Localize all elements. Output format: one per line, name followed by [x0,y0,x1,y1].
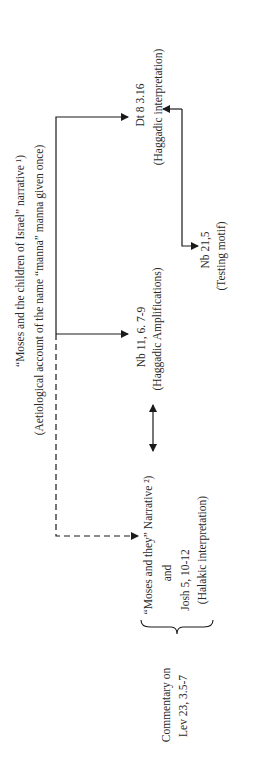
source-title: “Moses and the children of Israel” narra… [15,155,27,367]
dt-ref: Dt 8 3.16 [135,83,147,126]
dashed-arrow-to-group [56,334,138,536]
source-subtitle: (Aetiological account of the name “manna… [34,145,46,436]
nb21-ref: Nb 21,5 [200,231,212,268]
dt-note: (Haggadic interpretation) [153,49,165,166]
brace [141,620,213,634]
group-narrative: “Moses and they” Narrative ²) [143,476,155,615]
group-halakic: (Halakic interpretation) [197,496,209,604]
nb11-ref: Nb 11, 6. 7-9 [136,307,148,368]
nb11-note: (Haggadic Amplifications) [152,268,164,391]
arrow-dt-nb21 [182,109,198,246]
commentary-line1: Commentary on [161,668,173,742]
group-josh: Josh 5, 10-12 [180,549,192,611]
group-and: and [162,565,174,582]
nb21-note: (Testing motif) [216,221,228,290]
trunk-line [56,117,128,334]
commentary-line2: Lev 23, 3.5-7 [178,675,190,737]
